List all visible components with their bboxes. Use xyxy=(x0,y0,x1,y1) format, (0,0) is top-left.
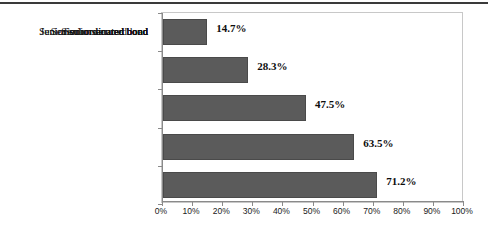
x-axis-tick-labels: 0%10%20%30%40%50%60%70%80%90%100% xyxy=(161,206,463,222)
x-axis-tick-label: 10% xyxy=(183,206,200,216)
bar[interactable] xyxy=(163,134,354,160)
x-axis-tick-label: 90% xyxy=(423,206,440,216)
bar-value-label: 28.3% xyxy=(257,60,287,72)
category-label-row: Senior secured loan xyxy=(0,12,158,50)
y-axis-tick xyxy=(158,51,162,52)
bar[interactable] xyxy=(163,95,306,121)
category-axis: Junior subordinated bond Senior subordin… xyxy=(0,12,158,203)
x-axis-tick-label: 20% xyxy=(213,206,230,216)
x-axis-tick-label: 40% xyxy=(273,206,290,216)
y-axis-tick xyxy=(158,89,162,90)
bar-value-label: 71.2% xyxy=(386,175,416,187)
x-axis-tick-label: 50% xyxy=(303,206,320,216)
y-axis-tick xyxy=(158,166,162,167)
bar-value-label: 63.5% xyxy=(363,137,393,149)
bar-chart-figure: Junior subordinated bond Senior subordin… xyxy=(0,0,488,239)
bar-row: 28.3% xyxy=(163,51,465,89)
bar-row: 63.5% xyxy=(163,128,465,166)
bar-row: 14.7% xyxy=(163,13,465,51)
plot-inner: 14.7%28.3%47.5%63.5%71.2% xyxy=(162,13,462,202)
x-axis-tick-label: 100% xyxy=(451,206,473,216)
x-axis-tick-label: 0% xyxy=(155,206,167,216)
bar-row: 71.2% xyxy=(163,166,465,204)
x-axis-tick-label: 30% xyxy=(243,206,260,216)
bar-value-label: 47.5% xyxy=(315,98,345,110)
bar[interactable] xyxy=(163,172,377,198)
bar[interactable] xyxy=(163,19,207,45)
y-axis-tick xyxy=(158,13,162,14)
x-axis-tick-label: 60% xyxy=(333,206,350,216)
category-label: Senior secured loan xyxy=(64,26,158,37)
y-axis-tick xyxy=(158,128,162,129)
x-axis-tick-label: 70% xyxy=(363,206,380,216)
bar-value-label: 14.7% xyxy=(216,22,246,34)
x-axis-tick-label: 80% xyxy=(393,206,410,216)
plot-area: 14.7%28.3%47.5%63.5%71.2% xyxy=(161,12,463,203)
bar-row: 47.5% xyxy=(163,89,465,127)
bar[interactable] xyxy=(163,57,248,83)
